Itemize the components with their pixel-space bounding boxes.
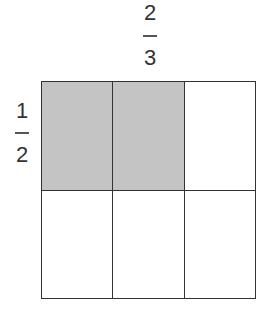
fraction-area-grid bbox=[41, 81, 256, 299]
fraction-bar bbox=[143, 35, 157, 37]
column-fraction-label: 2 3 bbox=[138, 2, 162, 69]
shaded-cell bbox=[42, 82, 113, 190]
fraction-numerator: 1 bbox=[10, 100, 34, 122]
fraction-denominator: 2 bbox=[10, 144, 34, 166]
fraction-bar bbox=[15, 132, 29, 134]
row-divider bbox=[42, 190, 255, 191]
row-fraction-label: 1 2 bbox=[10, 100, 34, 166]
fraction-numerator: 2 bbox=[138, 2, 162, 24]
shaded-cell bbox=[113, 82, 185, 190]
fraction-denominator: 3 bbox=[138, 47, 162, 69]
